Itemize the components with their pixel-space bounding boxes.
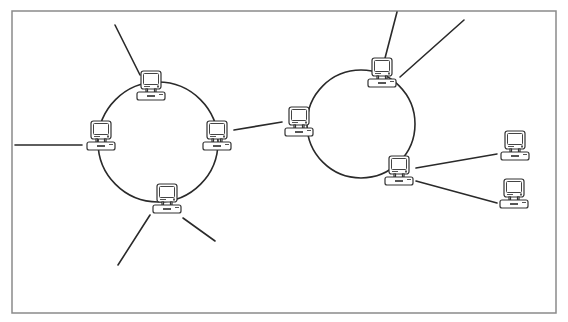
link-satellite-lower (416, 181, 497, 203)
link-left-bottom-external-b (183, 218, 215, 241)
computer-icon-right-ring-bottom (385, 156, 413, 185)
link-left-bottom-external-a (118, 215, 150, 265)
computer-icon-satellite-lower (500, 179, 528, 208)
computer-icon-right-ring-left (285, 107, 313, 136)
diagram-frame (12, 11, 556, 313)
links (15, 12, 497, 265)
computer-icon-left-ring-right (203, 121, 231, 150)
network-diagram (0, 0, 568, 322)
link-bridge (234, 122, 282, 130)
link-satellite-upper (416, 154, 497, 168)
nodes (87, 58, 529, 213)
computer-icon-left-ring-bottom (153, 184, 181, 213)
link-right-top-external-b (400, 20, 464, 77)
computer-icon-left-ring-left (87, 121, 115, 150)
link-right-top-external-a (384, 12, 397, 62)
computer-icon-satellite-upper (501, 131, 529, 160)
computer-icon-left-ring-top (137, 71, 165, 100)
link-left-top-external (115, 25, 140, 75)
computer-icon-right-ring-top (368, 58, 396, 87)
